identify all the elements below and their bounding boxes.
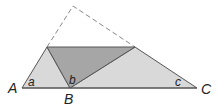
angle-label-b: b — [69, 73, 76, 87]
vertex-label-b: B — [64, 91, 73, 105]
angle-label-a: a — [28, 75, 35, 89]
dashed-fold-outline — [47, 6, 135, 47]
diagram-canvas: A B C a b c — [0, 0, 218, 105]
vertex-label-c: C — [201, 81, 212, 97]
folded-triangle-diagram: A B C a b c — [0, 0, 218, 105]
angle-label-c: c — [175, 75, 181, 89]
vertex-label-a: A — [7, 80, 17, 96]
